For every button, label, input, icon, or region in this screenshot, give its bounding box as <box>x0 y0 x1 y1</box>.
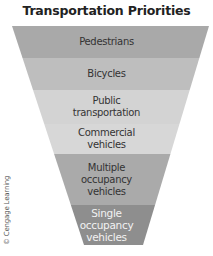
level-label-line: transportation <box>73 107 140 119</box>
funnel-level-multiple-occupancy-vehicles: Multiple occupancy vehicles <box>0 154 213 205</box>
level-label-line: Multiple <box>88 162 125 174</box>
level-label-line: Single <box>91 207 121 219</box>
copyright-credit: © Cengage Learning <box>2 179 12 245</box>
level-label-line: occupancy <box>81 174 132 186</box>
level-label-line: vehicles <box>87 186 125 198</box>
level-label-line: Commercial <box>78 127 135 139</box>
funnel-level-public-transportation: Public transportation <box>0 90 213 124</box>
level-label-line: vehicles <box>86 231 126 243</box>
funnel-level-commercial-vehicles: Commercial vehicles <box>0 124 213 154</box>
diagram-title: Transportation Priorities <box>0 3 213 18</box>
funnel-level-pedestrians: Pedestrians <box>0 26 213 58</box>
funnel-level-bicycles: Bicycles <box>0 58 213 90</box>
level-label: Pedestrians <box>79 36 134 48</box>
level-label: Bicycles <box>87 68 125 80</box>
level-label-line: occupancy <box>80 219 134 231</box>
level-label-line: Public <box>93 95 121 107</box>
funnel-level-single-occupancy-vehicles: Single occupancy vehicles <box>0 205 213 245</box>
level-label-line: vehicles <box>87 139 125 151</box>
priority-funnel: Pedestrians Bicycles Public transportati… <box>0 26 213 245</box>
